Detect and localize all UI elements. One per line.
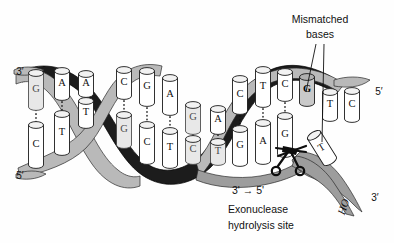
base-cylinder-c: C [29, 122, 44, 169]
base-cylinder-a: A [163, 75, 178, 116]
base-cylinder-a: A [55, 68, 70, 101]
base-cylinder-a: A [256, 120, 271, 165]
base-cylinder-c: C [278, 69, 293, 102]
base-cylinder-c: C [140, 122, 155, 165]
mismatched-bases-label-line2: bases [306, 28, 334, 40]
base-cylinder-g: G [300, 74, 315, 107]
base-letter: T [215, 145, 222, 156]
base-cylinder-a: A [211, 106, 226, 135]
base-letter: T [167, 141, 174, 152]
base-cylinder-g: G [29, 70, 44, 111]
hydrolysis-site-label-line2: hydrolysis site [228, 219, 294, 231]
exonuclease-label-line1: Exonuclease [228, 203, 288, 215]
base-letter: G [236, 139, 244, 150]
base-cylinder-t: T [163, 128, 178, 169]
base-letter: A [58, 77, 66, 88]
base-letter: C [189, 143, 196, 154]
base-letter: G [120, 123, 128, 134]
dna-helix-illustration: GAACGAGACTCGTCCTTGCTCTGAGT 3′ 5′ 5′ 3′ M… [0, 0, 394, 243]
base-letter: T [59, 126, 66, 137]
base-cylinder-g: G [117, 112, 132, 149]
base-cylinder-c: C [186, 136, 201, 165]
base-letter: G [143, 80, 151, 91]
base-letter: A [259, 135, 267, 146]
label-5prime-bottom-left: 5′ [16, 170, 24, 181]
label-3prime-bottom-right: 3′ [371, 192, 379, 203]
base-letter: T [260, 80, 267, 91]
base-cylinder-t: T [323, 89, 338, 122]
base-cylinder-g: G [140, 68, 155, 107]
base-letter: T [327, 98, 334, 109]
base-cylinder-t: T [55, 111, 70, 156]
base-letter: C [348, 98, 355, 109]
base-cylinder-g: G [186, 102, 201, 135]
dna-figure-canvas: GAACGAGACTCGTCCTTGCTCTGAGT 3′ 5′ 5′ 3′ M… [0, 0, 394, 243]
direction-label: 3' → 5' [232, 184, 264, 196]
base-cylinder-t: T [256, 67, 271, 108]
base-cylinder-c: C [345, 88, 360, 123]
base-cylinder-g: G [233, 126, 248, 167]
base-cylinder-c: C [117, 67, 132, 100]
label-5prime-top-right: 5′ [375, 86, 383, 97]
mismatched-bases-label-line1: Mismatched [292, 13, 349, 25]
base-cylinder-c: C [233, 76, 248, 115]
base-letter: T [83, 106, 90, 117]
base-cylinder-t: T [79, 98, 94, 129]
base-letter: C [281, 78, 288, 89]
label-3prime-top-left: 3′ [16, 66, 24, 77]
base-letter: A [82, 77, 90, 88]
base-letter: C [120, 76, 127, 87]
base-letter: C [143, 136, 150, 147]
base-letter: C [32, 138, 39, 149]
base-cylinder-a: A [79, 71, 94, 98]
base-letter: C [236, 88, 243, 99]
base-letter: G [281, 128, 289, 139]
base-cylinder-t: T [211, 139, 226, 166]
base-letter: A [214, 113, 222, 124]
base-letter: G [189, 111, 197, 122]
base-letter: G [32, 83, 40, 94]
base-letter: A [166, 88, 174, 99]
